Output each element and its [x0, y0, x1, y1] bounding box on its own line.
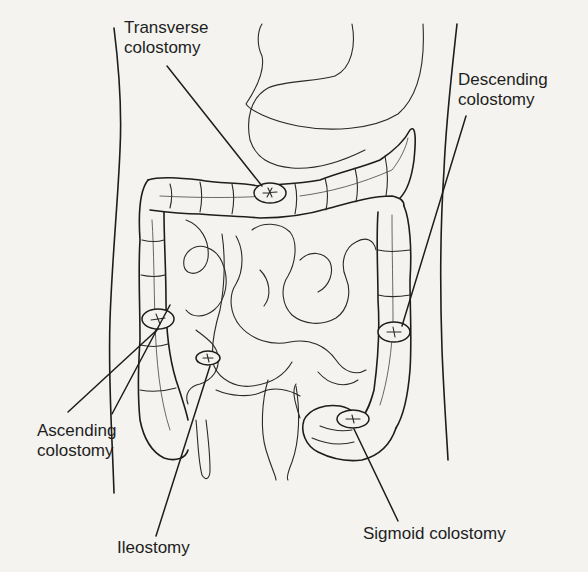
- appendix: [196, 420, 210, 479]
- label-descending-colostomy: Descending colostomy: [458, 70, 548, 110]
- stoma-transverse: [254, 183, 286, 203]
- rectum: [262, 380, 298, 480]
- torso-outline: [109, 24, 457, 493]
- stoma-sigmoid: [337, 410, 369, 428]
- stoma-descending: [378, 322, 410, 342]
- label-ascending-colostomy: Ascending colostomy: [37, 421, 116, 461]
- label-ileostomy: Ileostomy: [117, 538, 190, 558]
- label-sigmoid-colostomy: Sigmoid colostomy: [363, 524, 506, 544]
- label-transverse-colostomy: Transverse colostomy: [124, 18, 208, 58]
- stoma-ileostomy: [196, 351, 220, 365]
- transverse-colon: [148, 129, 415, 218]
- small-intestine: [184, 220, 376, 404]
